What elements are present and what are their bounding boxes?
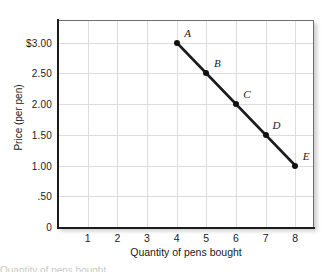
y-tick-label: 1.00 — [32, 160, 52, 171]
y-axis-line — [57, 19, 59, 229]
x-axis-title: Quantity of pens bought — [57, 246, 315, 258]
plot-area: ABCDE — [57, 20, 314, 228]
demand-curve-figure: ABCDE $3.002.502.001.501.00.500 12345678… — [0, 0, 326, 272]
data-point — [263, 132, 269, 138]
point-label-c: C — [243, 88, 250, 100]
x-tick-label: 3 — [144, 232, 150, 244]
point-label-b: B — [214, 57, 221, 69]
x-tick-label: 5 — [203, 232, 209, 244]
x-tick-label: 7 — [263, 232, 269, 244]
x-tick-label: 6 — [233, 232, 239, 244]
cropped-caption-text: Quantity of pens bought — [0, 265, 326, 272]
y-tick-label: 0 — [46, 222, 52, 233]
y-tick-label: 2.00 — [32, 99, 52, 110]
y-tick-label: 1.50 — [32, 129, 52, 140]
x-tick-label: 2 — [114, 232, 120, 244]
y-tick-label: $3.00 — [26, 37, 52, 48]
x-tick-label: 8 — [292, 232, 298, 244]
y-tick-label: .50 — [37, 191, 52, 202]
x-tick-label: 4 — [174, 232, 180, 244]
point-label-e: E — [303, 150, 310, 162]
point-label-a: A — [184, 27, 191, 39]
y-axis-title: Price (per pen) — [13, 53, 24, 183]
x-axis-line — [57, 227, 315, 229]
data-point — [174, 40, 180, 46]
data-point — [292, 163, 298, 169]
point-label-d: D — [273, 119, 281, 131]
data-point — [233, 101, 239, 107]
y-tick-label: 2.50 — [32, 68, 52, 79]
x-tick-label: 1 — [85, 232, 91, 244]
